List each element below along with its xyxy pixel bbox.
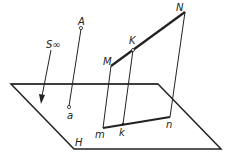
label-K: K <box>129 35 137 46</box>
segment-mn <box>103 117 170 128</box>
label-A: A <box>77 16 85 27</box>
projector-a <box>69 29 81 106</box>
segment-MN <box>111 12 185 66</box>
point-a-marker <box>67 105 70 108</box>
arrowhead-icon <box>39 94 45 104</box>
projector-m <box>103 66 111 128</box>
label-M: M <box>103 56 112 67</box>
label-N: N <box>176 2 184 13</box>
projection-direction-line <box>42 50 51 96</box>
label-s-infinity: S∞ <box>46 39 61 50</box>
point-K-marker <box>132 49 135 52</box>
projector-k <box>123 50 133 124</box>
label-H: H <box>75 137 83 148</box>
label-a: a <box>67 110 73 121</box>
label-m: m <box>95 129 105 140</box>
projector-n <box>170 12 185 117</box>
label-k: k <box>119 127 126 138</box>
label-n: n <box>166 119 172 130</box>
projection-diagram: S∞ A a M N K m k n H <box>0 0 226 159</box>
